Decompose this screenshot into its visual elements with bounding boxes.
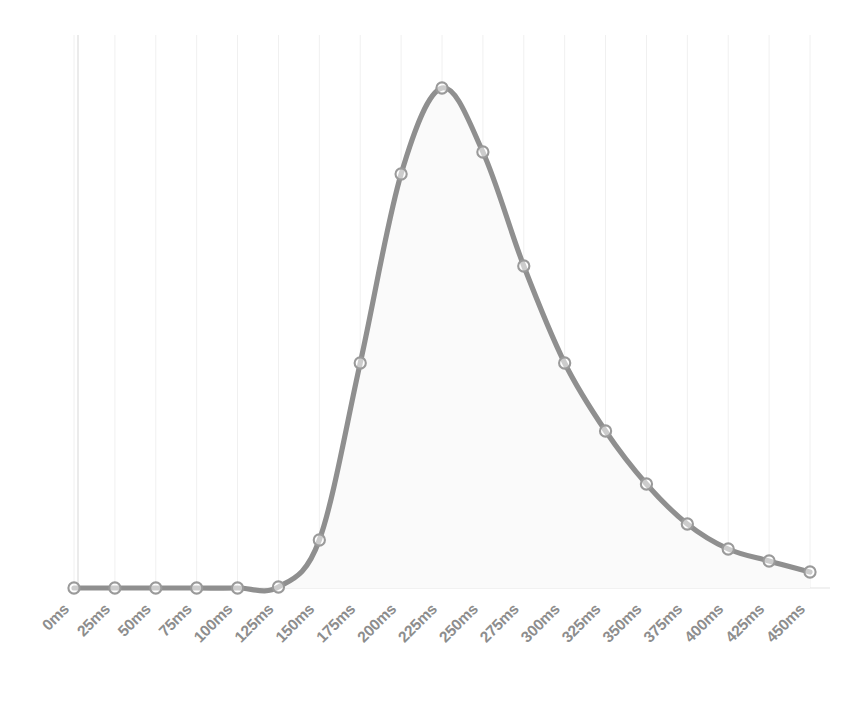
area-fill-path	[74, 88, 810, 591]
data-point-marker[interactable]	[804, 566, 815, 577]
data-point-marker[interactable]	[273, 581, 284, 592]
area-fill	[74, 88, 810, 591]
x-tick-label: 125ms	[231, 600, 276, 645]
x-tick-label: 325ms	[558, 600, 603, 645]
x-tick-label: 450ms	[763, 600, 808, 645]
x-tick-label: 375ms	[640, 600, 685, 645]
data-point-marker[interactable]	[559, 357, 570, 368]
data-point-marker[interactable]	[150, 582, 161, 593]
data-point-marker[interactable]	[68, 582, 79, 593]
chart-container: 0ms25ms50ms75ms100ms125ms150ms175ms200ms…	[0, 0, 862, 709]
data-point-marker[interactable]	[191, 582, 202, 593]
data-point-marker[interactable]	[396, 168, 407, 179]
x-tick-label: 400ms	[681, 600, 726, 645]
x-tick-label: 225ms	[395, 600, 440, 645]
x-tick-label: 175ms	[313, 600, 358, 645]
x-tick-label: 75ms	[155, 600, 194, 639]
x-tick-label: 200ms	[354, 600, 399, 645]
data-point-marker[interactable]	[232, 582, 243, 593]
data-point-marker[interactable]	[723, 543, 734, 554]
data-point-marker[interactable]	[477, 146, 488, 157]
x-axis-tick-labels: 0ms25ms50ms75ms100ms125ms150ms175ms200ms…	[39, 600, 809, 645]
x-tick-label: 300ms	[517, 600, 562, 645]
x-tick-label: 275ms	[476, 600, 521, 645]
x-tick-label: 100ms	[190, 600, 235, 645]
data-point-marker[interactable]	[314, 534, 325, 545]
data-point-marker[interactable]	[764, 555, 775, 566]
data-point-marker[interactable]	[600, 425, 611, 436]
x-tick-label: 250ms	[436, 600, 481, 645]
data-point-marker[interactable]	[436, 82, 447, 93]
x-tick-label: 50ms	[114, 600, 153, 639]
data-point-marker[interactable]	[518, 260, 529, 271]
data-point-marker[interactable]	[682, 518, 693, 529]
x-tick-label: 150ms	[272, 600, 317, 645]
data-point-marker[interactable]	[355, 357, 366, 368]
x-tick-label: 0ms	[39, 600, 73, 634]
data-point-marker[interactable]	[641, 478, 652, 489]
data-point-marker[interactable]	[109, 582, 120, 593]
distribution-area-chart: 0ms25ms50ms75ms100ms125ms150ms175ms200ms…	[0, 0, 862, 709]
x-tick-label: 25ms	[74, 600, 113, 639]
x-tick-label: 350ms	[599, 600, 644, 645]
x-tick-label: 425ms	[722, 600, 767, 645]
